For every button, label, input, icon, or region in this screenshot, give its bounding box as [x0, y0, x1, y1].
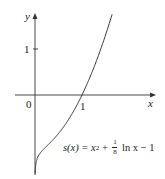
x-tick-label-1: 1 — [80, 101, 86, 112]
x-axis-label: x — [148, 98, 153, 109]
formula-plus: + — [99, 142, 110, 153]
fraction-denominator: 8 — [113, 149, 117, 156]
formula-lhs: s(x) = x — [63, 142, 96, 153]
y-axis-arrow-icon — [33, 13, 38, 19]
formula-rest: ln x − 1 — [119, 142, 154, 153]
function-annotation: s(x) = x2 + 1 8 ln x − 1 — [63, 139, 155, 156]
origin-label: 0 — [26, 99, 32, 110]
y-tick-label-1: 1 — [24, 44, 30, 55]
y-axis-label: y — [25, 11, 30, 22]
fraction-numerator: 1 — [113, 139, 117, 146]
formula-fraction: 1 8 — [112, 139, 117, 156]
